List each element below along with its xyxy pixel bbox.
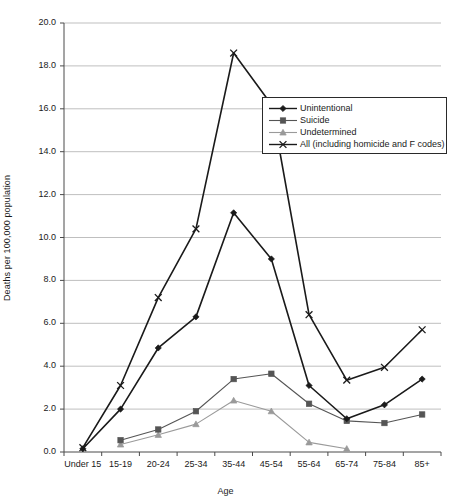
y-tick-label: 6.0 bbox=[18, 317, 56, 327]
marker-diamond bbox=[280, 105, 286, 111]
x-tick-label: 75-84 bbox=[366, 459, 404, 469]
x-tick-label: 25-34 bbox=[177, 459, 215, 469]
y-tick-label: 12.0 bbox=[18, 189, 56, 199]
y-tick-label: 2.0 bbox=[18, 403, 56, 413]
series-line bbox=[83, 213, 422, 449]
data-point-square bbox=[269, 371, 274, 376]
x-tick-label: Under 15 bbox=[64, 459, 102, 469]
plot-area bbox=[0, 0, 451, 501]
x-tick-label: 35-44 bbox=[215, 459, 253, 469]
legend-label: All (including homicide and F codes) bbox=[298, 139, 445, 149]
legend-marker-diamond-icon bbox=[268, 103, 298, 114]
data-point-x bbox=[419, 326, 426, 333]
marker-triangle bbox=[230, 397, 236, 403]
x-tick-label: 15-19 bbox=[102, 459, 140, 469]
marker-square bbox=[231, 376, 236, 381]
data-point-x bbox=[117, 382, 124, 389]
series-unintentional bbox=[80, 210, 426, 452]
legend-label: Undetermined bbox=[298, 127, 357, 137]
legend-item[interactable]: All (including homicide and F codes) bbox=[268, 138, 440, 150]
data-point-square bbox=[419, 412, 424, 417]
y-tick-label: 14.0 bbox=[18, 146, 56, 156]
y-tick-label: 4.0 bbox=[18, 360, 56, 370]
marker-square bbox=[306, 401, 311, 406]
legend-marker-square-icon bbox=[268, 115, 298, 126]
data-point-square bbox=[118, 438, 123, 443]
data-point-triangle bbox=[193, 421, 199, 427]
line-chart: Deaths per 100,000 population 0.02.04.06… bbox=[0, 0, 451, 501]
marker-square bbox=[382, 420, 387, 425]
marker-triangle bbox=[193, 421, 199, 427]
y-tick-label: 16.0 bbox=[18, 103, 56, 113]
data-point-diamond bbox=[280, 105, 286, 111]
y-tick-label: 18.0 bbox=[18, 60, 56, 70]
legend-item[interactable]: Unintentional bbox=[268, 102, 440, 114]
y-tick-label: 8.0 bbox=[18, 274, 56, 284]
data-point-square bbox=[306, 401, 311, 406]
marker-square bbox=[419, 412, 424, 417]
data-point-square bbox=[231, 376, 236, 381]
data-point-square bbox=[193, 409, 198, 414]
gridlines bbox=[64, 23, 441, 409]
marker-square bbox=[280, 117, 285, 122]
x-tick-label: 20-24 bbox=[139, 459, 177, 469]
x-tick-label: 55-64 bbox=[290, 459, 328, 469]
data-point-square bbox=[382, 420, 387, 425]
legend-item[interactable]: Suicide bbox=[268, 114, 440, 126]
marker-square bbox=[193, 409, 198, 414]
x-axis-title: Age bbox=[0, 486, 451, 496]
legend-label: Unintentional bbox=[298, 103, 353, 113]
x-tick-label: 65-74 bbox=[328, 459, 366, 469]
series-undetermined bbox=[117, 397, 350, 451]
data-point-square bbox=[280, 117, 285, 122]
y-tick-label: 20.0 bbox=[18, 17, 56, 27]
marker-square bbox=[269, 371, 274, 376]
legend-label: Suicide bbox=[298, 115, 330, 125]
x-tick-label: 45-54 bbox=[253, 459, 291, 469]
x-tick-label: 85+ bbox=[403, 459, 441, 469]
marker-square bbox=[118, 438, 123, 443]
series-line bbox=[121, 401, 347, 449]
marker-square bbox=[156, 427, 161, 432]
chart-legend: UnintentionalSuicideUndeterminedAll (inc… bbox=[262, 97, 447, 154]
legend-item[interactable]: Undetermined bbox=[268, 126, 440, 138]
legend-marker-x-icon bbox=[268, 139, 298, 150]
y-tick-label: 0.0 bbox=[18, 446, 56, 456]
data-point-x bbox=[155, 294, 162, 301]
legend-marker-triangle-icon bbox=[268, 127, 298, 138]
y-tick-label: 10.0 bbox=[18, 232, 56, 242]
data-point-triangle bbox=[230, 397, 236, 403]
data-point-square bbox=[156, 427, 161, 432]
